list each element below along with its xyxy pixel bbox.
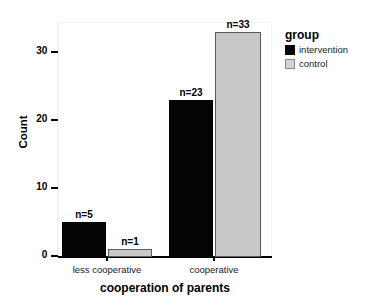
x-tick-label-less-cooperative: less cooperative	[73, 264, 142, 275]
x-tick-label-cooperative: cooperative	[189, 264, 238, 275]
y-tick-label-10: 10	[36, 182, 47, 192]
y-tick-mark-0	[51, 255, 58, 257]
bar-value-label-less-cooperative-intervention: n=5	[75, 209, 93, 220]
y-tick-mark-20	[51, 119, 58, 121]
bar-less-cooperative-control[interactable]	[108, 249, 152, 257]
legend-title: group	[285, 28, 365, 42]
bar-value-label-cooperative-intervention: n=23	[179, 87, 202, 98]
legend-swatch-intervention-icon	[285, 45, 295, 55]
legend-item-control[interactable]: control	[285, 57, 365, 70]
y-tick-label-0: 0	[42, 250, 47, 260]
y-axis-title: Count	[17, 92, 29, 172]
legend-swatch-control-icon	[285, 59, 295, 69]
bar-value-label-less-cooperative-control: n=1	[121, 236, 139, 247]
legend: group intervention control	[285, 28, 365, 71]
legend-label-control: control	[299, 58, 328, 69]
x-axis-title: cooperation of parents	[58, 281, 272, 295]
y-tick-label-30: 30	[36, 46, 47, 56]
bar-chart: 0 10 20 30 Count less cooperative cooper…	[0, 0, 368, 307]
bar-cooperative-intervention[interactable]	[169, 100, 213, 257]
legend-label-intervention: intervention	[299, 44, 348, 55]
bar-value-label-cooperative-control: n=33	[226, 19, 249, 30]
y-tick-mark-10	[51, 187, 58, 189]
y-tick-label-20: 20	[36, 114, 47, 124]
bar-cooperative-control[interactable]	[215, 32, 261, 257]
legend-item-intervention[interactable]: intervention	[285, 43, 365, 56]
y-tick-mark-30	[51, 51, 58, 53]
y-axis-line	[57, 22, 58, 256]
bar-less-cooperative-intervention[interactable]	[62, 222, 106, 257]
